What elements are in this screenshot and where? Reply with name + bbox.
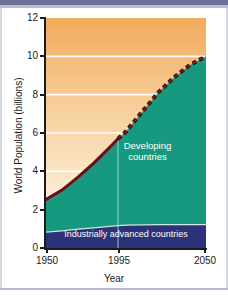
y-tick-4	[40, 170, 45, 172]
y-tick-label-12: 12	[2, 13, 38, 23]
right-frame-edge	[226, 8, 228, 288]
y-tick-12	[40, 17, 45, 19]
x-tick-2050	[204, 248, 206, 253]
annotation-developing-line1: Developing	[124, 140, 172, 151]
x-tick-label-1995: 1995	[105, 255, 133, 266]
chart-svg	[46, 18, 206, 248]
y-tick-2	[40, 209, 45, 211]
figure-container: Developing countries Industrially advanc…	[0, 0, 228, 295]
annotation-developing-line2: countries	[128, 151, 167, 162]
annotation-advanced-countries: Industrially advanced countries	[46, 229, 206, 240]
plot-area: Developing countries	[46, 18, 206, 248]
y-tick-0	[40, 247, 45, 249]
y-tick-8	[40, 94, 45, 96]
x-tick-1950	[46, 248, 48, 253]
y-axis-title: World Population (billions)	[13, 46, 24, 226]
x-tick-1995	[118, 248, 120, 253]
x-tick-label-1950: 1950	[33, 255, 61, 266]
y-tick-6	[40, 132, 45, 134]
annotation-developing-countries: Developing countries	[100, 140, 195, 162]
x-tick-label-2050: 2050	[191, 255, 219, 266]
y-tick-10	[40, 55, 45, 57]
x-axis-line	[44, 248, 207, 250]
y-tick-label-0: 0	[2, 243, 38, 253]
x-axis-title: Year	[0, 273, 228, 284]
